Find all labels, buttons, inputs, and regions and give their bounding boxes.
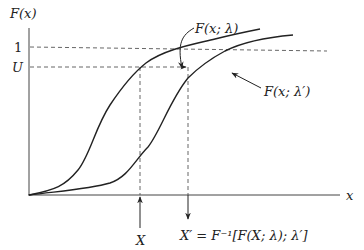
x-axis-label: x — [346, 188, 354, 203]
curve-label-arrow-lambda-prime — [232, 73, 261, 88]
x-marker-label: X — [135, 233, 146, 248]
curve-f-lambda — [29, 29, 260, 195]
curve-label-arrow-lambda — [180, 28, 194, 68]
y-tick-one: 1 — [14, 40, 22, 55]
cdf-diagram: F(x) x 1 U F(x; λ) F(x; λ′) X X′ = F⁻¹[F… — [0, 0, 364, 250]
curve-f-lambda-prime — [29, 35, 293, 195]
y-tick-u: U — [12, 60, 24, 75]
x-prime-marker-label: X′ = F⁻¹[F(X; λ); λ′] — [179, 228, 308, 243]
y-axis-label: F(x) — [9, 6, 37, 21]
curve-label-f-lambda: F(x; λ) — [194, 21, 238, 36]
curve-label-f-lambda-prime: F(x; λ′) — [263, 84, 310, 99]
